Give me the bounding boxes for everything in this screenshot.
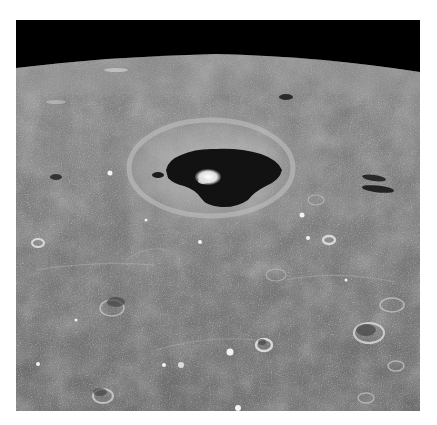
lunar-surface-image — [16, 20, 420, 411]
lunar-photo — [16, 20, 420, 411]
dark-patch — [50, 174, 62, 180]
crater-floor-fragment — [152, 172, 164, 178]
dark-patch — [279, 94, 293, 100]
moon-surface — [16, 20, 420, 411]
